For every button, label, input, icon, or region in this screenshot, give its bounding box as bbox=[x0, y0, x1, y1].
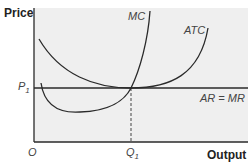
chart: Price Output O P1 Q1 MC ATC AR = MR bbox=[0, 0, 252, 163]
atc-label: ATC bbox=[184, 24, 205, 36]
x-axis-label: Output bbox=[207, 148, 246, 162]
plot-area bbox=[34, 8, 248, 142]
q1-label: Q1 bbox=[126, 146, 139, 161]
chart-svg bbox=[0, 0, 252, 163]
origin-label: O bbox=[28, 146, 37, 158]
ar-mr-label: AR = MR bbox=[200, 92, 245, 104]
y-axis-label: Price bbox=[4, 6, 33, 20]
p1-label: P1 bbox=[18, 80, 30, 95]
mc-label: MC bbox=[128, 10, 145, 22]
